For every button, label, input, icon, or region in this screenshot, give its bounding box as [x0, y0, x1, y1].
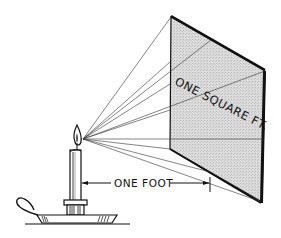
holder-collar	[64, 200, 87, 205]
light-ray	[83, 17, 171, 139]
light-ray	[83, 139, 170, 149]
distance-dimension: ONE FOOT	[82, 177, 210, 192]
arrow-right-icon	[203, 181, 209, 185]
light-ray	[83, 110, 170, 139]
candle	[70, 125, 81, 201]
holder-socket	[67, 205, 84, 215]
light-diagram: ONE SQUARE FT. ONE FOOT	[0, 0, 281, 238]
candle-holder	[17, 198, 130, 224]
candle-body	[70, 150, 81, 201]
flame-icon	[74, 125, 81, 145]
distance-label: ONE FOOT	[114, 177, 173, 189]
light-ray	[83, 62, 170, 139]
arrow-left-icon	[82, 181, 88, 185]
holder-handle	[17, 198, 38, 215]
